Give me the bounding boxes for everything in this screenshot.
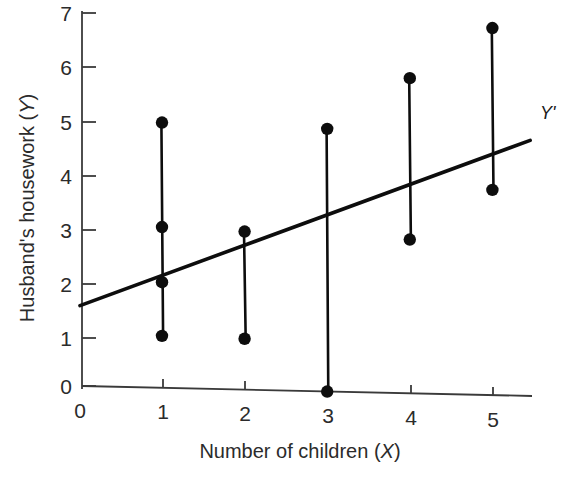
data-point (486, 22, 498, 34)
y-tick-label-3: 3 (60, 219, 72, 242)
y-axis-title: Husband's housework (Y) (16, 94, 38, 322)
y-tick-label-1: 1 (60, 327, 72, 350)
data-point (156, 116, 168, 128)
x-tick-label-2: 2 (239, 402, 251, 425)
x-axis-title-text: Number of children (199, 440, 368, 462)
x-tick-label-1: 1 (157, 400, 169, 423)
x-tick-label-5: 5 (487, 408, 499, 431)
y-tick-label-7: 7 (60, 2, 72, 25)
y-axis-title-text: Husband's housework (16, 125, 38, 322)
residual-segments-layer (161, 28, 493, 391)
x-tick-label-4: 4 (405, 406, 417, 429)
data-point (404, 72, 416, 84)
y-tick-label-5: 5 (60, 111, 72, 134)
plot-canvas: 7 6 5 4 3 2 1 0 0 1 2 3 4 5 (0, 0, 570, 480)
x-tick-label-0: 0 (74, 399, 86, 422)
residual-segment (492, 28, 494, 190)
data-point (486, 184, 498, 196)
x-axis-line (82, 386, 532, 396)
data-point (238, 225, 250, 237)
data-point (321, 123, 333, 135)
regression-scatter-figure: 7 6 5 4 3 2 1 0 0 1 2 3 4 5 (0, 0, 570, 480)
data-point (238, 333, 250, 345)
regression-line-label: Y' (540, 103, 556, 123)
data-point (404, 233, 416, 245)
y-tick-label-6: 6 (60, 56, 72, 79)
residual-segment (244, 232, 246, 339)
regression-line (80, 140, 530, 305)
x-axis-title: Number of children (X) (199, 440, 400, 462)
y-tick-label-4: 4 (60, 165, 72, 188)
regression-line-layer (80, 140, 530, 305)
data-point (321, 385, 333, 397)
residual-segment (327, 129, 329, 392)
y-tick-label-0: 0 (60, 375, 72, 398)
residual-segment (409, 78, 411, 239)
data-point (156, 221, 168, 233)
x-axis: 0 1 2 3 4 5 (74, 379, 532, 431)
x-axis-title-symbol: X (380, 440, 395, 462)
x-tick-label-3: 3 (322, 404, 334, 427)
y-axis: 7 6 5 4 3 2 1 0 (60, 2, 96, 398)
y-tick-label-2: 2 (60, 273, 72, 296)
data-point (156, 330, 168, 342)
